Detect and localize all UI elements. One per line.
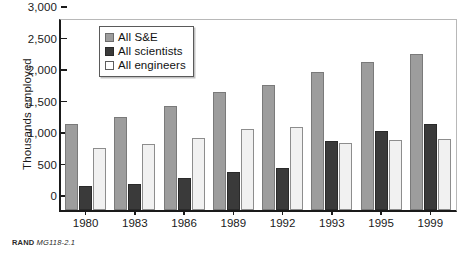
bars [307, 20, 356, 210]
y-tick-1000: 1,000 [28, 126, 61, 140]
y-axis-title: Thousands employed [21, 19, 33, 209]
bar-group-1993: 1993 [307, 20, 356, 210]
x-tick-label-1999: 1999 [417, 217, 443, 229]
source-brand: RAND [12, 238, 34, 247]
x-tick-mark-1980 [85, 210, 87, 215]
y-tick-3000: 3,000 [28, 0, 61, 14]
x-tick-label-1983: 1983 [122, 217, 148, 229]
bar-sci-1989 [227, 172, 240, 210]
y-tick-1500: 1,500 [28, 95, 61, 109]
bar-se-1999 [410, 54, 423, 210]
bar-eng-1992 [290, 127, 303, 210]
figure-bar-chart: Thousands employed 05001,0001,5002,0002,… [0, 0, 468, 258]
bar-eng-1995 [389, 140, 402, 210]
y-tick-label: 1,500 [28, 96, 61, 108]
bar-eng-1980 [93, 148, 106, 210]
bar-se-1993 [311, 72, 324, 210]
bars [357, 20, 406, 210]
x-tick-mark-1999 [430, 210, 432, 215]
legend-label: All scientists [118, 45, 183, 57]
bar-se-1992 [262, 85, 275, 210]
bar-se-1980 [65, 124, 78, 210]
bar-sci-1992 [276, 168, 289, 210]
y-tick-label: 1,000 [28, 127, 61, 139]
bar-eng-1983 [142, 144, 155, 210]
legend-item-se: All S&E [105, 30, 186, 44]
bar-eng-1989 [241, 129, 254, 210]
legend-label: All engineers [118, 59, 186, 71]
legend-item-sci: All scientists [105, 44, 186, 58]
legend-swatch-eng-icon [105, 61, 114, 70]
bar-group-1989: 1989 [209, 20, 258, 210]
bar-se-1986 [164, 106, 177, 210]
bars [406, 20, 455, 210]
bar-sci-1980 [79, 186, 92, 210]
bar-group-1999: 1999 [406, 20, 455, 210]
y-tick-label: 2,500 [28, 33, 61, 45]
bar-se-1995 [361, 62, 374, 210]
legend-swatch-se-icon [105, 33, 114, 42]
x-tick-mark-1992 [282, 210, 284, 215]
bar-group-1992: 1992 [258, 20, 307, 210]
bar-se-1983 [114, 117, 127, 210]
x-tick-mark-1989 [233, 210, 235, 215]
x-tick-label-1993: 1993 [319, 217, 345, 229]
bar-sci-1999 [424, 124, 437, 210]
bar-sci-1986 [178, 178, 191, 210]
y-tick-0: 0 [51, 189, 62, 203]
bar-eng-1993 [339, 143, 352, 210]
x-tick-label-1995: 1995 [368, 217, 394, 229]
bar-sci-1995 [375, 131, 388, 210]
x-tick-mark-1983 [134, 210, 136, 215]
chart-legend: All S&EAll scientistsAll engineers [99, 26, 194, 77]
legend-item-eng: All engineers [105, 58, 186, 72]
y-tick-2000: 2,000 [28, 63, 61, 77]
bar-eng-1999 [438, 139, 451, 210]
x-tick-mark-1986 [183, 210, 185, 215]
y-tick-label: 0 [51, 190, 62, 202]
legend-label: All S&E [118, 31, 158, 43]
x-tick-label-1986: 1986 [171, 217, 197, 229]
legend-swatch-sci-icon [105, 47, 114, 56]
x-tick-mark-1995 [380, 210, 382, 215]
y-tick-mark [61, 6, 67, 8]
x-tick-label-1992: 1992 [270, 217, 296, 229]
y-tick-2500: 2,500 [28, 32, 61, 46]
x-tick-label-1980: 1980 [73, 217, 99, 229]
x-tick-label-1989: 1989 [220, 217, 246, 229]
bars [258, 20, 307, 210]
y-tick-label: 2,000 [28, 64, 61, 76]
bar-eng-1986 [192, 138, 205, 210]
bar-se-1989 [213, 92, 226, 210]
y-tick-label: 3,000 [28, 1, 61, 13]
bar-sci-1993 [325, 141, 338, 210]
bar-group-1995: 1995 [357, 20, 406, 210]
bars [209, 20, 258, 210]
source-note: RANDMG118-2.1 [12, 238, 75, 247]
bar-sci-1983 [128, 184, 141, 210]
x-tick-mark-1993 [331, 210, 333, 215]
y-tick-500: 500 [38, 158, 62, 172]
source-doc-id: MG118-2.1 [34, 238, 75, 247]
y-tick-label: 500 [38, 159, 62, 171]
